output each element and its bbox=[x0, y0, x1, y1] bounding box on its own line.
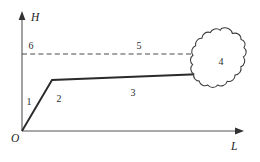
segment-label-6: 6 bbox=[29, 40, 34, 51]
origin-label: O bbox=[11, 132, 20, 144]
x-axis-arrowhead bbox=[235, 128, 244, 135]
segment-label-5: 5 bbox=[137, 40, 142, 51]
segment-label-3: 3 bbox=[131, 87, 136, 98]
x-axis-label: L bbox=[230, 140, 237, 152]
solid-piecewise-curve bbox=[22, 74, 203, 131]
region-label-4: 4 bbox=[219, 56, 224, 67]
y-axis-label: H bbox=[30, 11, 40, 23]
segment-label-1: 1 bbox=[27, 96, 32, 107]
diagram-svg: H L O 1 2 3 4 5 6 bbox=[0, 0, 260, 162]
segment-label-2: 2 bbox=[57, 93, 62, 104]
diagram-canvas: H L O 1 2 3 4 5 6 bbox=[0, 0, 260, 162]
y-axis-arrowhead bbox=[19, 11, 26, 20]
